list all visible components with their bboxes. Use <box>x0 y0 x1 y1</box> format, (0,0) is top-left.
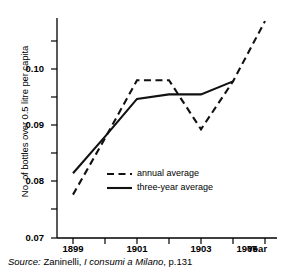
series-line-three-year-average <box>73 81 233 173</box>
x-tick-label-1901: 1901 <box>119 243 155 254</box>
source-work: I consumi a Milano <box>84 256 163 267</box>
y-tick-label-0.08: 0.08 <box>14 175 44 186</box>
x-axis-title: Year <box>247 243 267 254</box>
x-tick-label-1899: 1899 <box>55 243 91 254</box>
chart-figure: No. of bottles over 0.5 litre per capita… <box>0 0 281 273</box>
source-caption: Source: Zaninelli, I consumi a Milano, p… <box>8 256 192 267</box>
source-page: , p.131 <box>163 256 192 267</box>
legend-label-three-year-average: three-year average <box>137 182 213 192</box>
y-axis-ticks <box>51 41 57 238</box>
legend-label-annual-average: annual average <box>137 168 199 178</box>
y-tick-label-0.10: 0.10 <box>14 63 44 74</box>
source-author: Zaninelli, <box>43 256 81 267</box>
y-tick-label-0.09: 0.09 <box>14 119 44 130</box>
y-tick-label-0.07: 0.07 <box>14 232 44 243</box>
source-prefix: Source: <box>8 256 41 267</box>
legend-swatches <box>107 174 132 188</box>
chart-axes <box>57 18 277 238</box>
x-tick-label-1903: 1903 <box>183 243 219 254</box>
